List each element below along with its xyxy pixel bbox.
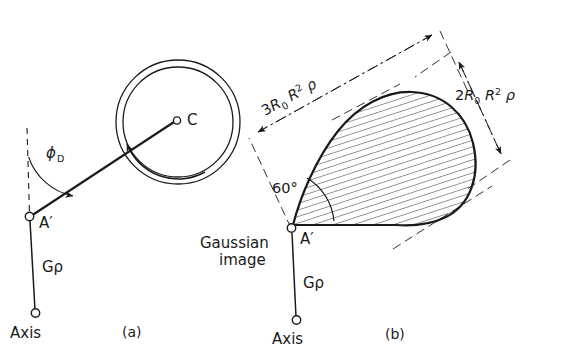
axis-label-a: Axis xyxy=(10,324,41,342)
figure-root: C ϕ D A′ Gρ Axis (a) xyxy=(0,0,575,353)
phi-angle-subscript: D xyxy=(57,153,64,164)
image-point-label-b: A′ xyxy=(300,230,314,248)
coma-patch xyxy=(280,80,495,240)
coma-patch-hatching xyxy=(280,80,495,240)
center-point-marker xyxy=(173,117,180,124)
width-dimension-label: 2R0 R2 ρ xyxy=(455,86,516,106)
image-point-label-a: A′ xyxy=(39,214,53,232)
gaussian-image-label-line1: Gaussian xyxy=(200,234,269,252)
axis-label-b: Axis xyxy=(272,330,303,348)
panel-a: C ϕ D A′ Gρ Axis (a) xyxy=(10,60,240,342)
image-point-marker-b xyxy=(287,224,295,232)
reference-line-dashed xyxy=(27,128,30,214)
width-dim-factor: R xyxy=(485,87,495,103)
width-dim-density: ρ xyxy=(506,87,516,103)
width-dim-coefficient: 2 xyxy=(455,87,464,103)
axis-point-marker-a xyxy=(31,309,39,317)
height-label-b: Gρ xyxy=(303,274,324,292)
panel-caption-a: (a) xyxy=(122,324,142,340)
center-point-label: C xyxy=(187,111,197,129)
gaussian-image-label-line2: image xyxy=(219,251,266,269)
panel-caption-b: (b) xyxy=(385,326,405,342)
rotation-arrow xyxy=(127,144,205,179)
width-extension-top xyxy=(415,52,451,77)
axis-line-a xyxy=(30,221,35,310)
height-label-a: Gρ xyxy=(42,258,63,276)
width-dim-base: R xyxy=(464,87,474,103)
radius-line xyxy=(31,122,174,216)
axis-point-marker-b xyxy=(292,316,300,324)
sixty-degree-label: 60° xyxy=(272,180,298,196)
phi-angle-symbol: ϕ xyxy=(46,144,56,162)
svg-text:2R0 R2 ρ: 2R0 R2 ρ xyxy=(455,86,516,106)
phi-angle-arc xyxy=(29,157,73,196)
axis-line-b xyxy=(292,233,296,317)
image-point-marker-a xyxy=(25,212,33,220)
diagram-canvas: C ϕ D A′ Gρ Axis (a) xyxy=(0,0,575,353)
panel-b: 60° 3R0 R2 ρ 2R0 R2 ρ Gaussian image A′ … xyxy=(200,31,516,348)
